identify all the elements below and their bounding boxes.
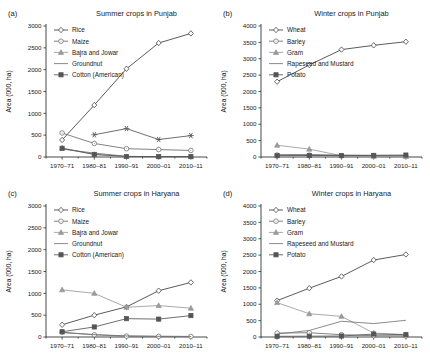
- legend-label: Potato: [287, 71, 306, 78]
- legend-label: Maize: [72, 218, 89, 225]
- legend-item[interactable]: Barley: [269, 38, 306, 46]
- legend: RiceMaizeBajra and JowarGroundnutCotton …: [54, 206, 124, 259]
- legend-label: Groundnut: [72, 240, 102, 247]
- legend-label: Gram: [287, 49, 303, 56]
- svg-text:2500: 2500: [243, 251, 257, 258]
- legend-item[interactable]: Rice: [54, 26, 85, 33]
- svg-text:1970–71: 1970–71: [50, 342, 75, 349]
- chart-panel-b: (b)Winter crops in PunjabArea (000, ha)0…: [215, 0, 430, 179]
- svg-text:2000: 2000: [243, 88, 257, 95]
- legend-label: Bajra and Jowar: [72, 229, 119, 237]
- legend-item[interactable]: Groundnut: [54, 60, 102, 67]
- x-axis-ticks: 1970–711980–811990–912000–012010–11: [261, 337, 422, 349]
- series-group: [275, 39, 409, 158]
- svg-text:0: 0: [38, 333, 42, 340]
- svg-text:2000–01: 2000–01: [147, 342, 172, 349]
- series-rapeseed-and-mustard: [277, 320, 406, 334]
- legend-item[interactable]: Barley: [269, 218, 306, 226]
- series-wheat: [275, 252, 409, 304]
- legend-label: Gram: [287, 229, 303, 236]
- svg-text:500: 500: [31, 131, 42, 138]
- series-maize: [60, 131, 193, 153]
- legend-label: Rice: [72, 26, 85, 33]
- legend-item[interactable]: Groundnut: [54, 240, 102, 247]
- legend-item[interactable]: Cotton (American): [54, 251, 124, 259]
- panel-title: Summer crops in Haryana: [94, 189, 181, 198]
- panel-tag: (a): [8, 9, 18, 18]
- legend-label: Rice: [72, 206, 85, 213]
- series-cotton-american: [60, 314, 193, 334]
- legend-label: Wheat: [287, 26, 306, 33]
- svg-text:1990–91: 1990–91: [114, 162, 139, 169]
- panel-tag: (b): [223, 9, 233, 18]
- legend-label: Bajra and Jowar: [72, 49, 119, 57]
- legend-item[interactable]: Cotton (American): [54, 71, 124, 79]
- series-gram: [275, 300, 409, 337]
- svg-text:500: 500: [31, 311, 42, 318]
- y-axis-ticks: 050010001500200025003000: [28, 202, 46, 340]
- legend-item[interactable]: Rice: [54, 206, 85, 213]
- legend-item[interactable]: Maize: [54, 218, 89, 225]
- svg-text:1500: 1500: [243, 104, 257, 111]
- chart-svg-c: (c)Summer crops in HaryanaArea (000, ha)…: [0, 180, 215, 359]
- svg-text:1500: 1500: [28, 88, 42, 95]
- figure-panel-grid: (a)Summer crops in PunjabArea (000, ha)0…: [0, 0, 430, 359]
- svg-text:1980–81: 1980–81: [297, 162, 322, 169]
- legend-label: Barley: [287, 38, 306, 46]
- legend-item[interactable]: Rapeseed and Mustard: [269, 240, 354, 248]
- svg-text:3000: 3000: [243, 235, 257, 242]
- legend-item[interactable]: Bajra and Jowar: [54, 49, 119, 57]
- legend-label: Cotton (American): [72, 251, 124, 259]
- chart-panel-a: (a)Summer crops in PunjabArea (000, ha)0…: [0, 0, 215, 179]
- panel-title: Winter crops in Punjab: [314, 9, 388, 18]
- chart-svg-b: (b)Winter crops in PunjabArea (000, ha)0…: [215, 0, 430, 179]
- svg-text:1000: 1000: [28, 110, 42, 117]
- legend-item[interactable]: Wheat: [269, 26, 306, 33]
- svg-text:1000: 1000: [28, 290, 42, 297]
- legend-item[interactable]: Potato: [269, 251, 306, 258]
- legend-item[interactable]: Bajra and Jowar: [54, 229, 119, 237]
- svg-text:1500: 1500: [243, 284, 257, 291]
- svg-text:1990–91: 1990–91: [329, 162, 354, 169]
- svg-text:0: 0: [253, 333, 257, 340]
- series-maize: [60, 330, 193, 339]
- series-cotton-american: [91, 126, 194, 142]
- svg-text:2000–01: 2000–01: [362, 162, 387, 169]
- svg-text:2010–11: 2010–11: [179, 162, 203, 169]
- legend-item[interactable]: Gram: [269, 229, 303, 236]
- y-axis-label: Area (000, ha): [220, 250, 228, 292]
- y-axis-ticks: 05001000150020002500300035004000: [243, 202, 261, 340]
- svg-text:1000: 1000: [243, 300, 257, 307]
- axes: [46, 24, 207, 157]
- series-rice: [60, 31, 194, 143]
- svg-text:3500: 3500: [243, 219, 257, 226]
- legend-item[interactable]: Wheat: [269, 206, 306, 213]
- svg-text:2010–11: 2010–11: [394, 342, 418, 349]
- y-axis-label: Area (000, ha): [5, 250, 13, 292]
- legend-item[interactable]: Potato: [269, 71, 306, 78]
- panel-title: Winter crops in Haryana: [312, 189, 392, 198]
- svg-text:3000: 3000: [243, 55, 257, 62]
- axes: [261, 24, 422, 157]
- legend-item[interactable]: Maize: [54, 38, 89, 45]
- svg-text:1970–71: 1970–71: [50, 162, 75, 169]
- svg-text:2010–11: 2010–11: [179, 342, 203, 349]
- y-axis-label: Area (000, ha): [220, 70, 228, 112]
- series-group: [60, 280, 194, 339]
- svg-text:3000: 3000: [28, 202, 42, 209]
- svg-text:1980–81: 1980–81: [297, 342, 322, 349]
- legend-item[interactable]: Rapeseed and Mustard: [269, 60, 354, 68]
- legend-label: Potato: [287, 251, 306, 258]
- svg-text:1990–91: 1990–91: [114, 342, 139, 349]
- svg-text:3000: 3000: [28, 22, 42, 29]
- svg-text:2500: 2500: [28, 44, 42, 51]
- svg-text:4000: 4000: [243, 202, 257, 209]
- legend-label: Cotton (American): [72, 71, 124, 79]
- svg-text:500: 500: [246, 317, 257, 324]
- svg-text:1970–71: 1970–71: [265, 342, 290, 349]
- svg-text:2000–01: 2000–01: [362, 342, 387, 349]
- legend-item[interactable]: Gram: [269, 49, 303, 56]
- legend-label: Rapeseed and Mustard: [287, 240, 354, 248]
- svg-text:500: 500: [246, 137, 257, 144]
- svg-text:4000: 4000: [243, 22, 257, 29]
